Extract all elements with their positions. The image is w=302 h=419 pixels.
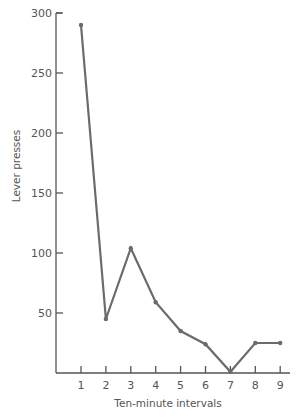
x-tick-label: 8 — [252, 379, 259, 392]
y-tick-label: 250 — [31, 67, 52, 80]
line-chart: 50100150200250300 123456789 Ten-minute i… — [0, 0, 302, 419]
x-tick-label: 5 — [177, 379, 184, 392]
data-point — [253, 341, 257, 345]
y-tick-label: 300 — [31, 7, 52, 20]
y-tick-label: 100 — [31, 247, 52, 260]
x-tick-label: 3 — [127, 379, 134, 392]
x-tick-label: 4 — [152, 379, 159, 392]
data-point — [154, 300, 158, 304]
x-axis-label: Ten-minute intervals — [113, 397, 221, 409]
x-axis: 123456789 — [56, 366, 290, 392]
data-point — [129, 246, 133, 250]
x-tick-label: 9 — [277, 379, 284, 392]
series-line — [81, 25, 280, 372]
data-point — [178, 329, 182, 333]
y-tick-label: 50 — [38, 307, 52, 320]
data-point — [203, 342, 207, 346]
data-point — [228, 370, 232, 374]
x-tick-label: 7 — [227, 379, 234, 392]
y-tick-label: 200 — [31, 127, 52, 140]
data-point — [104, 317, 108, 321]
x-tick-label: 2 — [102, 379, 109, 392]
data-series — [79, 23, 283, 374]
data-point — [79, 23, 83, 27]
y-tick-label: 150 — [31, 187, 52, 200]
y-axis: 50100150200250300 — [31, 7, 63, 373]
y-axis-label: Lever presses — [10, 130, 22, 203]
x-tick-label: 1 — [78, 379, 85, 392]
data-point — [278, 341, 282, 345]
x-tick-label: 6 — [202, 379, 209, 392]
